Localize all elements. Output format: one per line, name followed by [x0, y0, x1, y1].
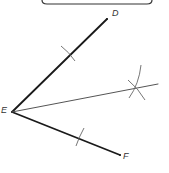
diagram-canvas — [0, 0, 169, 173]
ray-ed — [12, 19, 107, 112]
point-label-d: D — [112, 9, 119, 18]
point-f-marker — [119, 154, 121, 156]
ray-ef — [12, 112, 120, 155]
construction-arc-1 — [129, 65, 141, 98]
point-label-e: E — [1, 106, 7, 115]
point-d-marker — [106, 18, 108, 20]
point-label-f: F — [123, 152, 129, 161]
cropped-box-border — [42, 0, 152, 4]
angle-bisector-diagram: D E F — [0, 0, 169, 173]
